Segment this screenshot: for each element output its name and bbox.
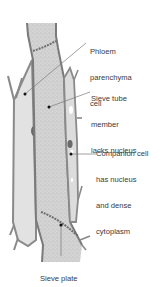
- label-sieve-plate: Sieve plate: [40, 258, 78, 287]
- label-companion-cell: Companion cell has nucleus and dense cyt…: [96, 133, 148, 245]
- companion-nucleus: [67, 140, 72, 148]
